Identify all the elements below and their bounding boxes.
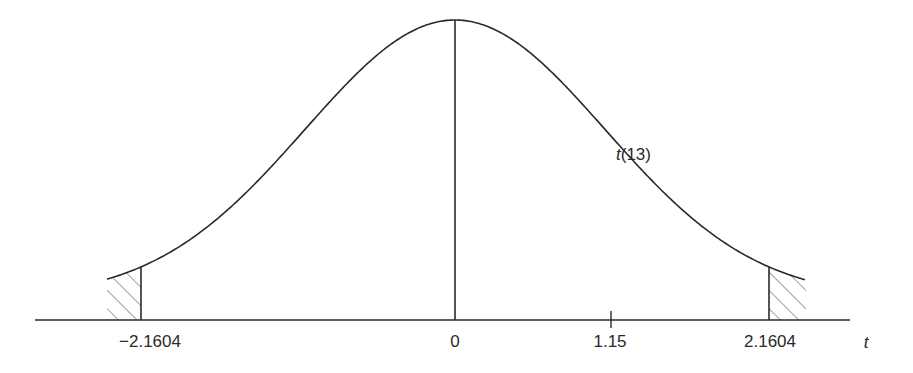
curve-label: t(13) [616,145,651,164]
left-tail-rejection-region [100,250,150,320]
right-tail-rejection-region [765,250,815,320]
tick-label-observed: 1.15 [593,332,626,351]
tick-label-pos-critical: 2.1604 [744,332,796,351]
x-axis-label: t [864,333,870,352]
tick-label-neg-critical: −2.1604 [119,332,181,351]
tick-label-zero: 0 [450,332,459,351]
t-distribution-chart: −2.1604 0 1.15 2.1604 t t(13) [0,0,913,373]
density-curve [107,20,805,280]
